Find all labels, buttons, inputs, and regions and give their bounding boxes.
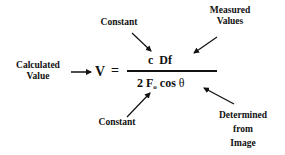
denominator: 2 Fo cos θ bbox=[137, 76, 185, 94]
label-value-text: Value bbox=[6, 71, 70, 82]
label-calculated-value: Calculated Value bbox=[6, 60, 70, 82]
label-constant-bottom-text: Constant bbox=[99, 117, 136, 127]
label-determined-text: Determined bbox=[210, 108, 276, 122]
equation-lhs-v: V bbox=[95, 64, 105, 80]
label-constant-top-text: Constant bbox=[101, 17, 138, 27]
label-constant-bottom: Constant bbox=[92, 117, 142, 128]
label-constant-top: Constant bbox=[94, 17, 144, 28]
equals-sign: = bbox=[111, 63, 119, 78]
variable-v: V bbox=[95, 64, 105, 79]
fraction-line bbox=[127, 70, 217, 72]
arrow-measured-values bbox=[194, 37, 217, 53]
denominator-subscript-o: o bbox=[153, 83, 157, 91]
denominator-theta: θ bbox=[179, 76, 185, 90]
numerator: c Df bbox=[148, 53, 172, 67]
label-measured-values: Measured Values bbox=[200, 5, 260, 27]
arrow-constant-bottom bbox=[127, 93, 150, 117]
equation-equals: = bbox=[111, 63, 119, 79]
label-measured-text: Measured bbox=[200, 5, 260, 16]
numerator-df: Df bbox=[159, 53, 172, 67]
label-determined-from-image: Determined from Image bbox=[210, 108, 276, 150]
denominator-2: 2 bbox=[137, 76, 143, 90]
label-values-text: Values bbox=[200, 16, 260, 27]
label-calculated-text: Calculated bbox=[6, 60, 70, 71]
label-from-text: from bbox=[210, 122, 276, 136]
numerator-c: c bbox=[148, 53, 153, 67]
arrow-constant-top bbox=[132, 33, 151, 51]
label-image-text: Image bbox=[210, 136, 276, 150]
denominator-cos: cos bbox=[160, 76, 176, 90]
arrow-determined-from-image bbox=[204, 88, 234, 104]
